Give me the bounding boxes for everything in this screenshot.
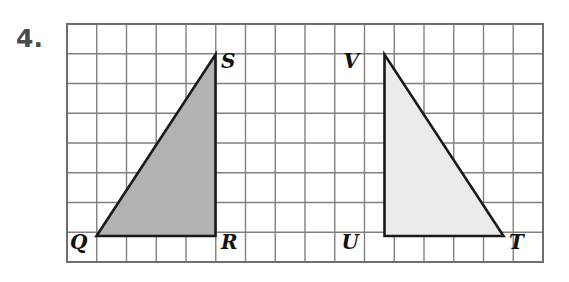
vertex-label-u: U xyxy=(342,230,361,254)
vertex-label-q: Q xyxy=(70,230,88,254)
vertex-label-t: T xyxy=(509,230,526,254)
worksheet-problem-figure: 4. QRSVUT xyxy=(0,0,569,282)
geometry-figure: QRSVUT xyxy=(0,0,569,282)
vertex-label-v: V xyxy=(343,49,361,73)
vertex-label-r: R xyxy=(220,230,238,254)
vertex-label-s: S xyxy=(221,49,235,73)
